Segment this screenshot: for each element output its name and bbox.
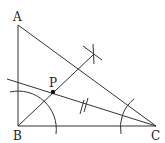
arc-b: [10, 91, 56, 134]
cross-mark-lower: [80, 98, 88, 114]
bisector-c: [7, 79, 156, 126]
geometry-diagram: A B C P: [0, 0, 165, 143]
bisector-b: [18, 55, 93, 126]
label-p: P: [49, 76, 57, 90]
side-ac: [18, 25, 156, 126]
label-c: C: [151, 129, 160, 143]
point-p: [51, 90, 55, 94]
cross-mark-upper: [83, 44, 102, 64]
label-a: A: [12, 10, 22, 24]
label-b: B: [13, 129, 22, 143]
